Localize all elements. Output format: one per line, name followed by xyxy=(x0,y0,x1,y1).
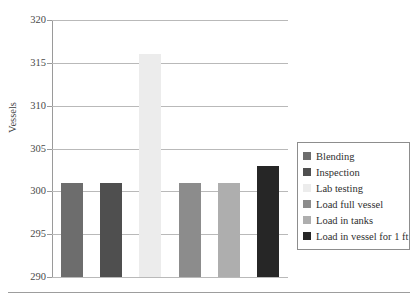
bar xyxy=(61,183,83,277)
bar xyxy=(139,54,161,277)
bar xyxy=(218,183,240,277)
y-axis-tick-labels: 290295300305310315320 xyxy=(0,0,46,300)
bar xyxy=(100,183,122,277)
plot-area xyxy=(52,20,288,277)
gridline xyxy=(52,277,288,278)
legend-item-label: Blending xyxy=(316,151,355,162)
legend-swatch-icon xyxy=(303,200,311,208)
bar-chart-figure: 290295300305310315320 Vessels BlendingIn… xyxy=(0,0,418,300)
gridline xyxy=(52,191,288,192)
y-axis-tick-label: 295 xyxy=(30,229,46,240)
y-axis-tick-label: 310 xyxy=(30,101,46,112)
legend-item[interactable]: Load full vessel xyxy=(303,196,405,212)
y-axis-title: Vessels xyxy=(7,88,18,148)
gridline xyxy=(52,234,288,235)
legend-item[interactable]: Load in tanks xyxy=(303,212,405,228)
legend-swatch-icon xyxy=(303,216,311,224)
legend-swatch-icon xyxy=(303,152,311,160)
y-axis-tick xyxy=(47,234,52,235)
gridline xyxy=(52,63,288,64)
legend-swatch-icon xyxy=(303,168,311,176)
y-axis-tick-label: 300 xyxy=(30,186,46,197)
y-axis-tick xyxy=(47,106,52,107)
y-axis-tick xyxy=(47,20,52,21)
y-axis-tick-label: 290 xyxy=(30,272,46,283)
legend-item-label: Load full vessel xyxy=(316,199,383,210)
y-axis-tick-label: 315 xyxy=(30,58,46,69)
gridline xyxy=(52,106,288,107)
legend-item-label: Load in tanks xyxy=(316,215,373,226)
gridline xyxy=(52,149,288,150)
legend-item-label: Inspection xyxy=(316,167,360,178)
legend-item[interactable]: Blending xyxy=(303,148,405,164)
y-axis-tick-label: 305 xyxy=(30,144,46,155)
y-axis-tick xyxy=(47,191,52,192)
legend-item-label: Load in vessel for 1 ft xyxy=(316,231,408,242)
legend-swatch-icon xyxy=(303,184,311,192)
y-axis-tick xyxy=(47,277,52,278)
legend-item[interactable]: Inspection xyxy=(303,164,405,180)
chart-legend: BlendingInspectionLab testingLoad full v… xyxy=(297,142,410,250)
footer-rule xyxy=(8,292,410,293)
bar xyxy=(257,166,279,277)
y-axis-tick xyxy=(47,149,52,150)
legend-item[interactable]: Load in vessel for 1 ft xyxy=(303,228,405,244)
legend-swatch-icon xyxy=(303,232,311,240)
y-axis-tick xyxy=(47,63,52,64)
legend-item[interactable]: Lab testing xyxy=(303,180,405,196)
legend-item-label: Lab testing xyxy=(316,183,363,194)
bar xyxy=(179,183,201,277)
gridline xyxy=(52,20,288,21)
y-axis-tick-label: 320 xyxy=(30,15,46,26)
